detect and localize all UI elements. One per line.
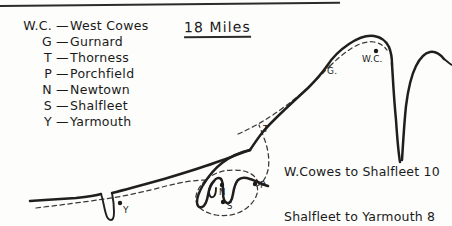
route-dashed-porchfield-thorness — [257, 125, 269, 186]
place-dot-shalfleet — [221, 200, 225, 204]
place-marker-thorness: T — [262, 124, 269, 134]
place-marker-gurnard: G. — [327, 66, 337, 76]
place-marker-newtown: N — [219, 183, 226, 197]
inlet-yarmouth — [101, 193, 114, 220]
coastline-west-shore — [30, 194, 101, 201]
place-label-west-cowes: W.C. — [362, 54, 383, 64]
place-label-newtown: N — [219, 187, 226, 197]
place-dot-yarmouth — [118, 201, 122, 205]
place-label-porchfield: P — [260, 180, 266, 190]
estuary-newtown-outline — [197, 150, 268, 207]
route-dashed-thorness-gurnard — [238, 66, 330, 134]
place-label-gurnard: G. — [327, 66, 337, 76]
place-label-shalfleet: S — [227, 201, 233, 211]
map-page: W.C. — West Cowes G — Gurnard T — Thorne… — [0, 0, 452, 226]
coastline-yarmouth-to-thorness — [112, 150, 250, 193]
distance-notes: W.Cowes to Shalfleet 10 Shalfleet to Yar… — [284, 134, 440, 226]
place-label-yarmouth: Y — [122, 205, 129, 215]
estuary-newtown-creek — [209, 181, 216, 197]
place-dot-porchfield — [253, 182, 257, 186]
place-label-thorness: T — [262, 124, 269, 134]
place-marker-yarmouth: Y — [118, 201, 129, 215]
place-marker-shalfleet: S — [221, 200, 233, 211]
distance-line-shalfleet-yarmouth: Shalfleet to Yarmouth 8 — [284, 209, 440, 224]
place-marker-west-cowes: W.C. — [362, 49, 383, 64]
coastline-northeast-edge — [444, 59, 452, 65]
distance-line-cowes-shalfleet: W.Cowes to Shalfleet 10 — [284, 164, 440, 179]
place-dot-west-cowes — [374, 49, 378, 53]
